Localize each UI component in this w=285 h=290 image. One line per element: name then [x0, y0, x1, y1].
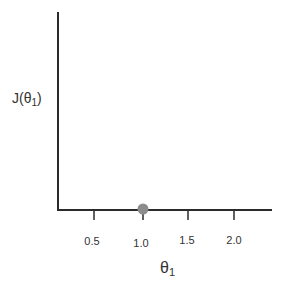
x-tick-label: 2.0: [226, 234, 241, 246]
y-label-suffix: ): [37, 90, 42, 106]
x-tick-label: 1.0: [133, 237, 148, 249]
y-axis-label: J(θ1): [12, 90, 42, 108]
x-tick-label: 1.5: [179, 234, 194, 246]
y-label-prefix: J(θ: [12, 90, 32, 106]
data-point: [138, 204, 149, 215]
x-label-main: θ: [160, 259, 169, 276]
x-tick-label: 0.5: [84, 235, 99, 247]
chart-canvas: 0.5 1.0 1.5 2.0 J(θ1) θ1: [0, 0, 285, 290]
x-label-sub: 1: [169, 266, 175, 278]
x-axis-label: θ1: [160, 259, 175, 278]
